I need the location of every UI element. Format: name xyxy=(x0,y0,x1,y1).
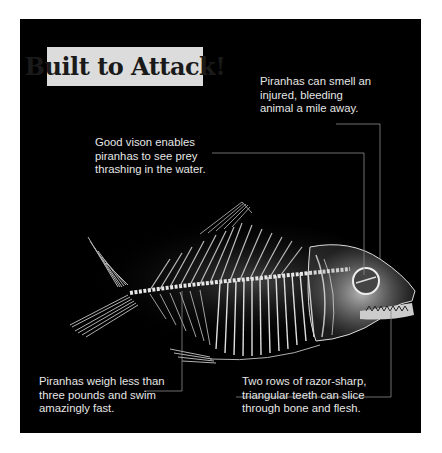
eye-socket xyxy=(353,268,379,294)
callout-vision: Good vison enables piranhas to see prey … xyxy=(95,136,206,177)
callout-line: Piranhas weigh less than xyxy=(39,375,165,389)
callout-line: through bone and flesh. xyxy=(242,402,366,416)
callout-teeth: Two rows of razor-sharp, triangular teet… xyxy=(242,375,366,416)
page-title: Built to Attack! xyxy=(25,52,226,81)
callout-line: Good vison enables xyxy=(95,136,206,150)
callout-line: Piranhas can smell an xyxy=(260,75,371,89)
callout-smell: Piranhas can smell an injured, bleeding … xyxy=(260,75,371,116)
infographic-panel: Built to Attack! Piranhas can smell an i… xyxy=(20,19,421,433)
title-box: Built to Attack! xyxy=(47,47,203,86)
callout-line: triangular teeth can slice xyxy=(242,389,366,403)
callout-line: injured, bleeding xyxy=(260,89,371,103)
callout-line: thrashing in the water. xyxy=(95,163,206,177)
callout-line: three pounds and swim xyxy=(39,389,165,403)
callout-line: Two rows of razor-sharp, xyxy=(242,375,366,389)
callout-weight: Piranhas weigh less than three pounds an… xyxy=(39,375,165,416)
anal-fin xyxy=(170,345,320,363)
callout-line: animal a mile away. xyxy=(260,102,371,116)
callout-line: piranhas to see prey xyxy=(95,150,206,164)
fish-head xyxy=(308,245,415,341)
callout-line: amazingly fast. xyxy=(39,402,165,416)
